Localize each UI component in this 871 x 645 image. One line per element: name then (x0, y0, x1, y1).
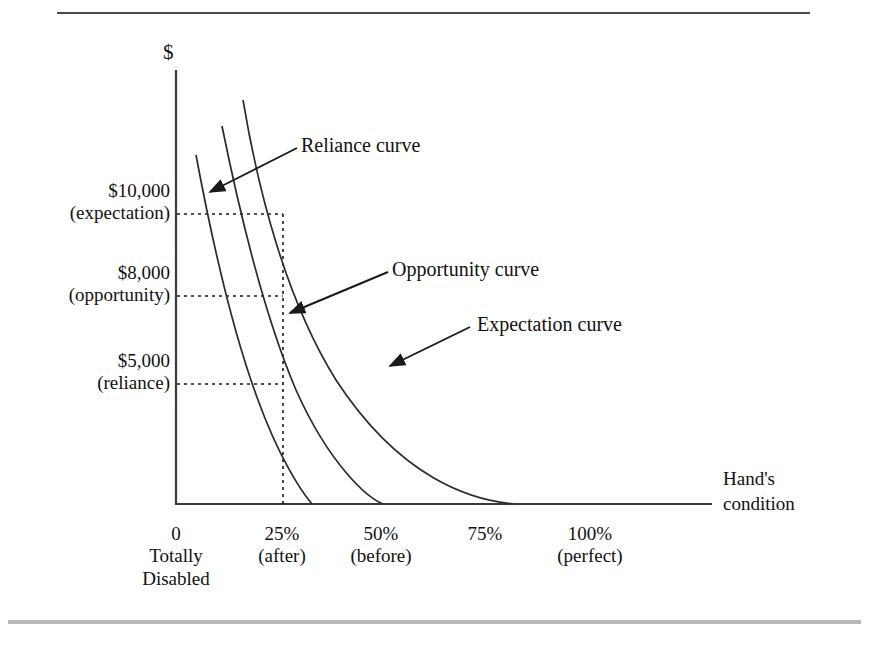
annotation-expectation-curve: Expectation curve (477, 313, 622, 337)
y-tick-expectation-note: (expectation) (0, 202, 170, 224)
y-tick-expectation: $10,000 (expectation) (0, 180, 170, 225)
y-tick-reliance-note: (reliance) (0, 372, 170, 394)
y-tick-opportunity-value: $8,000 (0, 262, 170, 284)
annotation-opportunity-curve: Opportunity curve (392, 258, 539, 282)
x-tick-75-value: 75% (425, 523, 545, 545)
x-axis-title-line2: condition (723, 492, 795, 517)
y-tick-expectation-value: $10,000 (0, 180, 170, 202)
annotation-reliance-curve: Reliance curve (301, 134, 420, 158)
x-tick-0-value: 0 (116, 523, 236, 545)
x-tick-100: 100% (perfect) (530, 523, 650, 568)
x-tick-0-note: Totally (116, 545, 236, 567)
x-axis-title-line1: Hand's (723, 467, 795, 492)
x-tick-100-note: (perfect) (530, 545, 650, 567)
x-tick-50-note: (before) (321, 545, 441, 567)
x-tick-100-value: 100% (530, 523, 650, 545)
curve-expectation (243, 100, 514, 504)
y-tick-opportunity: $8,000 (opportunity) (0, 262, 170, 307)
curve-reliance (196, 155, 312, 504)
x-axis-title: Hand's condition (723, 467, 795, 516)
leader-arrow-expectation (390, 327, 470, 366)
x-tick-0-note2: Disabled (116, 568, 236, 590)
y-tick-opportunity-note: (opportunity) (0, 284, 170, 306)
x-tick-0: 0 Totally Disabled (116, 523, 236, 590)
x-tick-50-value: 50% (321, 523, 441, 545)
leader-arrow-opportunity (290, 272, 388, 313)
y-tick-reliance: $5,000 (reliance) (0, 350, 170, 395)
y-tick-reliance-value: $5,000 (0, 350, 170, 372)
figure-container: $ $10,000 (expectation) $8,000 (opportun… (0, 0, 871, 645)
y-axis-symbol: $ (163, 40, 174, 65)
x-tick-50: 50% (before) (321, 523, 441, 568)
x-tick-75: 75% (425, 523, 545, 545)
